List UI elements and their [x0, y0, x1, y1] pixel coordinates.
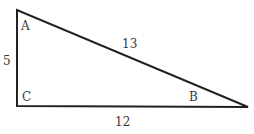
side-label-ab: 13 — [122, 37, 137, 51]
vertex-label-a: A — [20, 19, 30, 33]
side-label-ac: 5 — [3, 54, 11, 68]
vertex-label-c: C — [22, 90, 31, 104]
vertex-label-b: B — [189, 90, 198, 104]
triangle-diagram: A C B 5 13 12 — [0, 0, 254, 134]
side-label-cb: 12 — [115, 115, 130, 129]
triangle-shape — [17, 10, 248, 107]
